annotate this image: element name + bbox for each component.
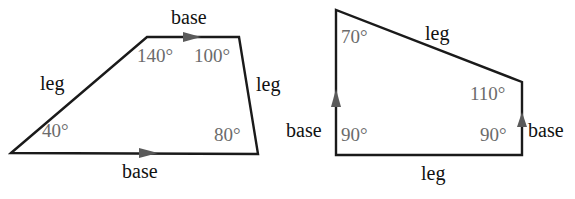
angle-top-left: 140° xyxy=(137,45,173,66)
right-base-label: base xyxy=(528,119,564,141)
angle-bottom-left: 40° xyxy=(42,120,69,141)
trapezoid-left: base base leg leg 40° 140° 100° 80° xyxy=(11,6,280,182)
top-leg-label: leg xyxy=(425,22,449,45)
angle-top-right: 110° xyxy=(470,83,505,104)
trapezoid-right: leg leg base base 70° 110° 90° 90° xyxy=(286,10,564,185)
parallel-arrow-icon xyxy=(139,148,158,158)
trapezoid-diagram: base base leg leg 40° 140° 100° 80° leg … xyxy=(0,0,575,199)
angle-top-left: 70° xyxy=(341,26,368,47)
left-leg-label: leg xyxy=(40,72,64,95)
bottom-base-label: base xyxy=(122,160,158,182)
bottom-leg-label: leg xyxy=(421,162,445,185)
parallel-arrow-icon xyxy=(517,112,527,127)
top-base-label: base xyxy=(171,6,207,28)
parallel-arrow-icon xyxy=(183,32,201,42)
angle-bottom-left: 90° xyxy=(341,124,368,145)
angle-bottom-right: 90° xyxy=(480,124,507,145)
angle-bottom-right: 80° xyxy=(214,124,241,145)
diagram-svg: base base leg leg 40° 140° 100° 80° leg … xyxy=(0,0,575,199)
parallel-arrow-icon xyxy=(331,89,341,107)
left-base-label: base xyxy=(286,119,322,141)
angle-top-right: 100° xyxy=(194,45,230,66)
right-leg-label: leg xyxy=(256,73,280,96)
